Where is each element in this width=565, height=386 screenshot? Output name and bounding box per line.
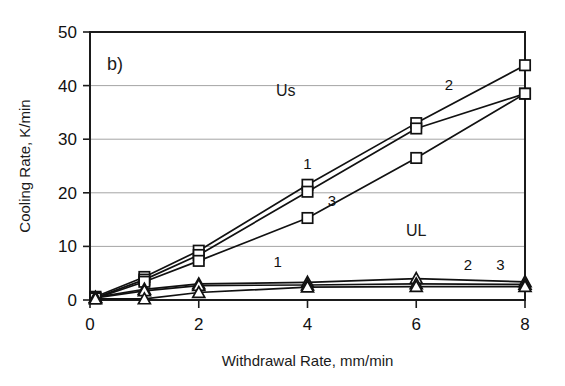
x-tick-label-6: 6 (412, 315, 421, 334)
series-number-label-ul-2: 2 (464, 256, 472, 273)
y-tick-label-50: 50 (58, 23, 77, 42)
x-tick-label-4: 4 (303, 315, 312, 334)
data-marker-square (520, 88, 530, 98)
y-tick-label-10: 10 (58, 237, 77, 256)
data-marker-square (411, 153, 421, 163)
data-marker-square (520, 60, 530, 70)
series-number-label-us-2: 2 (445, 76, 453, 93)
y-tick-label-0: 0 (68, 291, 77, 310)
group-label-us: Us (276, 82, 296, 99)
y-tick-label-20: 20 (58, 184, 77, 203)
group-label-ul: UL (406, 222, 427, 239)
series-number-label-us-3: 3 (328, 192, 336, 209)
chart-text-labels-group: 0102030405002468123123UsULb)Withdrawal R… (16, 23, 530, 369)
x-tick-label-0: 0 (85, 315, 94, 334)
x-tick-label-2: 2 (194, 315, 203, 334)
y-tick-label-40: 40 (58, 77, 77, 96)
x-tick-label-8: 8 (520, 315, 529, 334)
data-marker-square (302, 213, 312, 223)
x-axis-title: Withdrawal Rate, mm/min (222, 352, 394, 369)
series-number-label-ul-3: 3 (496, 256, 504, 273)
data-marker-square (302, 187, 312, 197)
y-axis-title: Cooling Rate, K/min (16, 99, 33, 232)
y-tick-label-30: 30 (58, 130, 77, 149)
cooling-rate-chart: 0102030405002468123123UsULb)Withdrawal R… (0, 0, 565, 386)
chart-figure: 0102030405002468123123UsULb)Withdrawal R… (0, 0, 565, 386)
data-marker-square (411, 123, 421, 133)
data-marker-square (194, 256, 204, 266)
series-number-label-us-1: 1 (303, 155, 311, 172)
panel-label: b) (107, 54, 123, 74)
series-number-label-ul-1: 1 (273, 253, 281, 270)
